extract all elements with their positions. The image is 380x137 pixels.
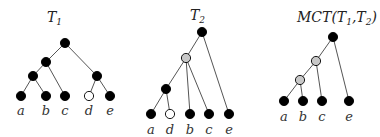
- tree-edge: [46, 62, 65, 96]
- leaf-node-c: [60, 91, 69, 100]
- leaf-node-e: [224, 109, 233, 118]
- internal-node: [197, 27, 206, 36]
- leaf-label: a: [147, 122, 155, 137]
- leaf-label: a: [17, 103, 25, 118]
- leaf-node-d: [165, 109, 174, 118]
- leaf-node-e: [344, 96, 353, 105]
- internal-node: [328, 32, 337, 41]
- leaf-node-a: [16, 91, 25, 100]
- leaf-label: d: [85, 103, 93, 118]
- leaf-label: b: [42, 103, 50, 118]
- internal-node: [161, 84, 170, 93]
- leaf-label: c: [205, 122, 213, 137]
- internal-node: [60, 38, 69, 47]
- internal-node: [311, 56, 320, 65]
- tree-title: T2: [190, 7, 205, 25]
- leaf-node-c: [317, 96, 326, 105]
- leaf-label: e: [225, 122, 233, 137]
- leaf-label: c: [61, 103, 69, 118]
- leaf-node-d: [84, 91, 93, 100]
- internal-node: [41, 57, 50, 66]
- leaf-label: a: [280, 109, 288, 124]
- leaf-node-b: [185, 109, 194, 118]
- leaf-label: e: [106, 103, 114, 118]
- leaf-label: b: [299, 109, 307, 124]
- tree-edge: [166, 58, 186, 89]
- tree-title: T1: [47, 9, 62, 27]
- tree-t2: adbceT2: [146, 7, 233, 137]
- leaf-label: d: [166, 122, 174, 137]
- leaf-label: e: [345, 109, 353, 124]
- leaf-node-a: [279, 96, 288, 105]
- leaf-label: c: [318, 109, 326, 124]
- tree-t1: abcdeT1: [16, 9, 114, 118]
- internal-node: [92, 71, 101, 80]
- tree-edge: [316, 61, 322, 101]
- leaf-node-c: [204, 109, 213, 118]
- tree-diagram-canvas: abcdeT1adbceT2abceMCT(T1,T2): [0, 0, 380, 137]
- leaf-label: b: [186, 122, 194, 137]
- internal-node: [295, 75, 304, 84]
- leaf-node-e: [105, 91, 114, 100]
- leaf-node-a: [146, 109, 155, 118]
- leaf-node-b: [298, 96, 307, 105]
- internal-node: [181, 53, 190, 62]
- tree-edge: [202, 32, 229, 114]
- tree-mct: abceMCT(T1,T2): [279, 9, 377, 124]
- tree-title: MCT(T1,T2): [296, 9, 377, 27]
- leaf-node-b: [41, 91, 50, 100]
- tree-edge: [333, 37, 349, 101]
- tree-edge: [65, 43, 97, 76]
- internal-node: [28, 71, 37, 80]
